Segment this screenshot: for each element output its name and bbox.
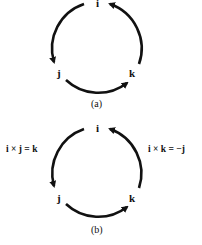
caption-b: (b) (91, 225, 103, 235)
node-i-a: i (96, 0, 99, 9)
arrow-j-to-k-a (66, 80, 127, 93)
panel-b: i j k i × j = k i × k = −j (b) (0, 122, 202, 245)
panel-a: i j k (a) (0, 0, 202, 115)
node-j-a: j (57, 68, 61, 79)
node-i-b: i (96, 123, 99, 134)
node-k-a: k (129, 68, 135, 79)
arrow-k-to-i-a (110, 4, 142, 64)
arrow-i-to-j-b (52, 129, 84, 186)
arrow-k-to-i-b (110, 129, 141, 188)
arrow-j-to-k-b (66, 204, 127, 217)
annotation-i-cross-j: i × j = k (6, 144, 37, 154)
caption-a: (a) (91, 99, 102, 109)
arrow-i-to-j-a (52, 4, 84, 62)
node-k-b: k (129, 193, 135, 204)
annotation-i-cross-k: i × k = −j (148, 144, 185, 154)
node-j-b: j (57, 193, 61, 204)
